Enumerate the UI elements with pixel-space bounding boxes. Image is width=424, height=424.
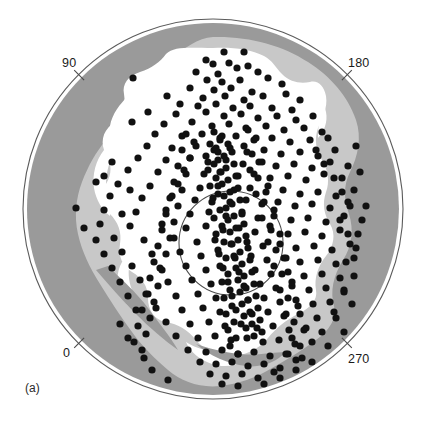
scatter-point bbox=[296, 148, 303, 155]
scatter-point bbox=[92, 236, 99, 243]
scatter-point bbox=[166, 234, 173, 241]
scatter-point bbox=[346, 202, 353, 209]
scatter-point bbox=[210, 160, 217, 167]
scatter-point bbox=[138, 194, 145, 201]
scatter-point bbox=[342, 258, 349, 265]
scatter-point bbox=[230, 318, 237, 325]
scatter-point bbox=[163, 92, 170, 99]
scatter-point bbox=[260, 380, 267, 387]
scatter-point bbox=[260, 360, 267, 367]
scatter-point bbox=[128, 262, 135, 269]
scatter-point bbox=[294, 302, 301, 309]
scatter-point bbox=[326, 204, 333, 211]
scatter-point bbox=[266, 352, 273, 359]
scatter-point bbox=[269, 322, 276, 329]
scatter-point bbox=[346, 240, 353, 247]
scatter-point bbox=[277, 150, 284, 157]
scatter-point bbox=[292, 244, 299, 251]
scatter-point bbox=[80, 224, 87, 231]
scatter-point bbox=[331, 146, 338, 153]
scatter-point bbox=[108, 158, 115, 165]
scatter-point bbox=[263, 256, 270, 263]
scatter-point bbox=[130, 338, 137, 345]
scatter-point bbox=[276, 286, 283, 293]
scatter-point bbox=[304, 214, 311, 221]
scatter-point bbox=[182, 224, 189, 231]
scatter-point bbox=[126, 222, 133, 229]
scatter-point bbox=[100, 206, 107, 213]
scatter-point bbox=[288, 334, 295, 341]
scatter-point bbox=[124, 334, 131, 341]
scatter-point bbox=[108, 264, 115, 271]
scatter-point bbox=[198, 130, 205, 137]
scatter-point bbox=[252, 292, 259, 299]
scatter-point bbox=[132, 306, 139, 313]
scatter-point bbox=[210, 214, 217, 221]
scatter-point bbox=[240, 272, 247, 279]
scatter-point bbox=[264, 182, 271, 189]
scatter-point bbox=[330, 174, 337, 181]
scatter-point bbox=[218, 346, 225, 353]
scatter-point bbox=[150, 258, 157, 265]
scatter-point bbox=[356, 168, 363, 175]
scatter-point bbox=[284, 230, 291, 237]
scatter-point bbox=[138, 346, 145, 353]
scatter-point bbox=[188, 276, 195, 283]
scatter-point bbox=[218, 222, 225, 229]
scatter-point bbox=[236, 288, 243, 295]
scatter-point bbox=[202, 222, 209, 229]
scatter-point bbox=[194, 102, 201, 109]
scatter-point bbox=[273, 112, 280, 119]
scatter-point bbox=[234, 236, 241, 243]
scatter-point bbox=[228, 148, 235, 155]
scatter-point bbox=[254, 114, 261, 121]
scatter-point bbox=[264, 308, 271, 315]
scatter-point bbox=[140, 354, 147, 361]
scatter-point bbox=[116, 320, 123, 327]
scatter-point bbox=[292, 116, 299, 123]
scatter-point bbox=[226, 286, 233, 293]
scatter-point bbox=[322, 218, 329, 225]
scatter-point bbox=[191, 196, 198, 203]
scatter-point bbox=[228, 240, 235, 247]
scatter-point bbox=[220, 48, 227, 55]
scatter-point bbox=[205, 318, 212, 325]
scatter-point bbox=[314, 188, 321, 195]
scatter-point bbox=[208, 198, 215, 205]
scatter-point bbox=[320, 170, 327, 177]
scatter-point bbox=[308, 164, 315, 171]
scatter-point bbox=[318, 128, 325, 135]
scatter-point bbox=[243, 238, 250, 245]
scatter-point bbox=[338, 174, 345, 181]
scatter-point bbox=[228, 302, 235, 309]
scatter-point bbox=[274, 198, 281, 205]
scatter-point bbox=[214, 246, 221, 253]
scatter-point bbox=[96, 220, 103, 227]
scatter-point bbox=[276, 230, 283, 237]
scatter-point bbox=[221, 92, 228, 99]
scatter-point bbox=[240, 48, 247, 55]
scatter-point bbox=[154, 168, 161, 175]
scatter-point bbox=[313, 314, 320, 321]
scatter-point bbox=[244, 296, 251, 303]
scatter-point bbox=[282, 90, 289, 97]
scatter-point bbox=[344, 162, 351, 169]
scatter-point bbox=[224, 216, 231, 223]
scatter-point bbox=[318, 270, 325, 277]
scatter-point bbox=[270, 262, 277, 269]
scatter-point bbox=[239, 160, 246, 167]
scatter-point bbox=[220, 294, 227, 301]
angle-label-180: 180 bbox=[348, 56, 369, 70]
scatter-point bbox=[238, 370, 245, 377]
scatter-point bbox=[296, 258, 303, 265]
scatter-point bbox=[284, 294, 291, 301]
scatter-point bbox=[146, 182, 153, 189]
scatter-point bbox=[284, 350, 291, 357]
scatter-point bbox=[100, 172, 107, 179]
scatter-point bbox=[197, 252, 204, 259]
scatter-point bbox=[258, 158, 265, 165]
scatter-point bbox=[202, 56, 209, 63]
scatter-point bbox=[176, 100, 183, 107]
scatter-point bbox=[286, 138, 293, 145]
scatter-point bbox=[244, 62, 251, 69]
